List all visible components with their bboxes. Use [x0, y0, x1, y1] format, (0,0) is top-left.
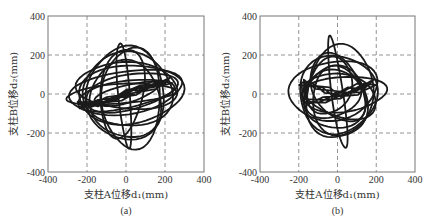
y-tick-label: -400 — [239, 167, 257, 178]
y-axis-label: 支柱B位移d₂(mm) — [7, 52, 19, 137]
panel-label: (a) — [120, 205, 131, 217]
y-tick-label: 200 — [242, 50, 257, 61]
y-tick-label: -400 — [27, 167, 45, 178]
y-tick-label: 0 — [40, 89, 45, 100]
x-tick-label: 400 — [197, 174, 212, 185]
y-tick-label: 400 — [242, 11, 257, 22]
x-tick-label: 200 — [369, 174, 384, 185]
trajectory — [66, 43, 184, 149]
y-tick-labels: -400-2000200400 — [27, 11, 45, 178]
x-tick-labels: -400-2000200400 — [251, 174, 423, 185]
x-tick-label: -200 — [78, 174, 96, 185]
panel-b: -400-2000200400 -400-2000200400 支柱A位移d₁(… — [219, 11, 423, 218]
y-tick-labels: -400-2000200400 — [239, 11, 257, 178]
x-tick-labels: -400-2000200400 — [39, 174, 212, 185]
y-axis-label: 支柱B位移d₂(mm) — [219, 52, 231, 137]
panel-label: (b) — [332, 205, 344, 217]
y-tick-label: 0 — [252, 89, 257, 100]
y-tick-label: 400 — [30, 11, 45, 22]
x-tick-label: 400 — [408, 174, 423, 185]
y-tick-label: -200 — [239, 128, 257, 139]
y-tick-label: -200 — [27, 128, 45, 139]
x-tick-label: 0 — [335, 174, 340, 185]
x-axis-label: 支柱A位移d₁(mm) — [295, 188, 379, 200]
x-tick-label: 0 — [124, 174, 129, 185]
y-tick-label: 200 — [30, 50, 45, 61]
x-axis-label: 支柱A位移d₁(mm) — [84, 188, 168, 200]
figure: -400-2000200400 -400-2000200400 支柱A位移d₁(… — [0, 0, 434, 220]
panel-a: -400-2000200400 -400-2000200400 支柱A位移d₁(… — [7, 11, 212, 218]
x-tick-label: -200 — [290, 174, 308, 185]
x-tick-label: 200 — [158, 174, 173, 185]
